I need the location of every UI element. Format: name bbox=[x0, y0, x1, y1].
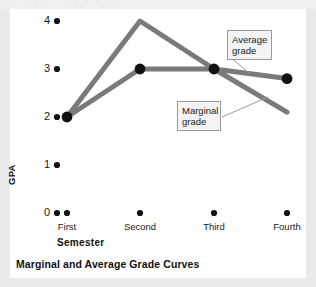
marginal-callout-leader-line bbox=[222, 97, 268, 117]
y-tick-dot bbox=[54, 18, 60, 24]
chart-card: 4 3 2 1 0 First Second Third Fourth GPA … bbox=[10, 9, 306, 278]
y-tick-label-4: 4 bbox=[36, 14, 50, 26]
marginal-grade-callout: Marginal grade bbox=[177, 101, 221, 131]
figure-caption: Marginal and Average Grade Curves bbox=[16, 258, 199, 270]
x-tick-dot bbox=[64, 210, 70, 216]
y-tick-label-2: 2 bbox=[36, 110, 50, 122]
average-grade-callout: Average grade bbox=[227, 30, 272, 60]
chart-plot-area: 4 3 2 1 0 First Second Third Fourth GPA … bbox=[10, 9, 306, 278]
y-axis-title: GPA bbox=[6, 164, 17, 185]
data-point-marker bbox=[282, 73, 293, 84]
y-tick-dot bbox=[54, 162, 60, 168]
x-tick-label-first: First bbox=[37, 221, 97, 232]
x-tick-label-third: Third bbox=[184, 221, 244, 232]
y-tick-dot bbox=[54, 210, 60, 216]
x-tick-dot bbox=[284, 210, 290, 216]
clipped-text-remnant: . . . . . . . . . . . . bbox=[4, 0, 120, 4]
y-tick-dot bbox=[54, 66, 60, 72]
y-tick-dot bbox=[54, 114, 60, 120]
data-point-marker bbox=[209, 64, 220, 75]
x-tick-dot bbox=[137, 210, 143, 216]
x-tick-label-second: Second bbox=[110, 221, 170, 232]
data-point-marker bbox=[62, 112, 73, 123]
y-tick-label-1: 1 bbox=[36, 158, 50, 170]
x-tick-label-fourth: Fourth bbox=[257, 221, 316, 232]
x-axis-title: Semester bbox=[57, 237, 104, 248]
data-point-marker bbox=[135, 64, 146, 75]
clipped-text-strip: . . . . . . . . . . . . bbox=[0, 0, 316, 9]
x-tick-dot bbox=[211, 210, 217, 216]
y-tick-label-3: 3 bbox=[36, 62, 50, 74]
y-tick-label-0: 0 bbox=[36, 206, 50, 218]
